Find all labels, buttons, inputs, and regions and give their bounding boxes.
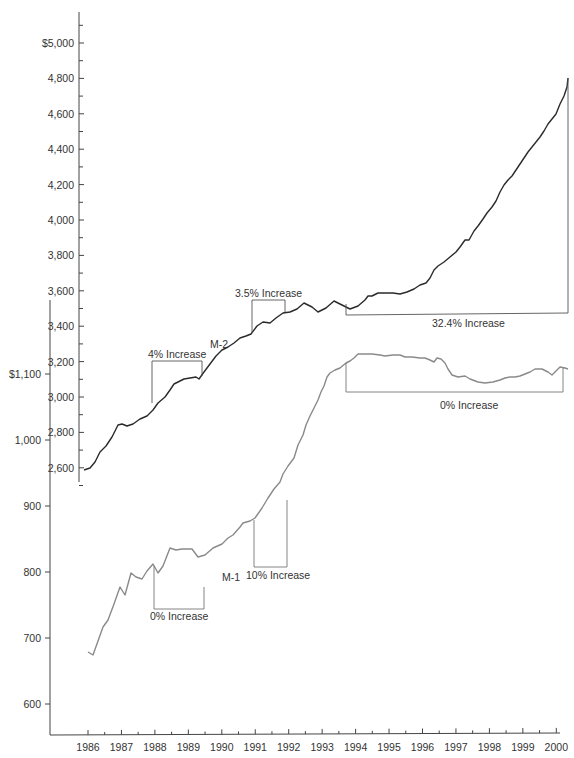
m1-series-label: M-1 <box>222 571 240 583</box>
m2-tick-label: 4,400 <box>48 143 74 155</box>
m2-tick-label: 3,800 <box>48 249 74 261</box>
x-tick-label: 1986 <box>76 741 100 753</box>
x-tick-label: 1997 <box>444 741 468 753</box>
m1-annotation-0pct-1988: 0% Increase <box>150 610 209 622</box>
m2-tick-label: 2,800 <box>48 426 74 438</box>
m1-tick-label: 1,000 <box>15 434 41 446</box>
m1-tick-label: 600 <box>23 698 41 710</box>
m2-tick-label: 4,000 <box>48 214 74 226</box>
m2-tick-label: 4,800 <box>48 72 74 84</box>
x-axis: 1986198719881989199019911992199319941995… <box>50 728 568 753</box>
m1-tick-label: 900 <box>23 500 41 512</box>
m2-tick-label: 3,600 <box>48 285 74 297</box>
x-tick-label: 1987 <box>110 741 134 753</box>
m2-annotation-32-4pct: 32.4% Increase <box>432 317 505 329</box>
m2-annotation-3-5pct: 3.5% Increase <box>235 287 302 299</box>
x-tick-label: 1992 <box>277 741 301 753</box>
x-tick-label: 1989 <box>177 741 201 753</box>
m1-bracket-0pct-1988 <box>154 566 204 609</box>
x-tick-label: 1994 <box>344 741 368 753</box>
m1-tick-label: 700 <box>23 632 41 644</box>
m2-tick-label: 4,200 <box>48 179 74 191</box>
x-tick-label: 1998 <box>478 741 502 753</box>
m2-annotation-4pct: 4% Increase <box>148 348 207 360</box>
m2-bracket-3-5pct <box>252 300 285 333</box>
x-tick-label: 1991 <box>244 741 268 753</box>
x-tick-label: 1995 <box>377 741 401 753</box>
x-tick-label: 1990 <box>210 741 234 753</box>
m1-tick-label: 800 <box>23 566 41 578</box>
m1-annotation-0pct-1994: 0% Increase <box>440 399 499 411</box>
m1-y-axis: $1,1001,000900800700600 <box>9 300 50 735</box>
m2-tick-label: 3,000 <box>48 391 74 403</box>
x-tick-label: 1988 <box>143 741 167 753</box>
money-supply-chart: $5,0004,8004,6004,4004,2004,0003,8003,60… <box>0 0 574 758</box>
m2-tick-label: 3,400 <box>48 320 74 332</box>
m2-tick-label: $5,000 <box>42 37 74 49</box>
x-tick-label: 1996 <box>411 741 435 753</box>
m2-series-line <box>84 78 568 470</box>
x-tick-label: 2000 <box>545 741 569 753</box>
m2-tick-label: 2,600 <box>48 462 74 474</box>
m2-tick-label: 3,200 <box>48 356 74 368</box>
x-tick-label: 1993 <box>310 741 334 753</box>
m2-bracket-32-4pct <box>346 78 568 315</box>
x-tick-label: 1999 <box>511 741 535 753</box>
m2-series-label: M-2 <box>210 338 228 350</box>
m1-tick-label: $1,100 <box>9 368 41 380</box>
m1-annotation-10pct: 10% Increase <box>246 569 310 581</box>
m1-bracket-0pct-1994 <box>346 363 563 392</box>
m2-y-axis: $5,0004,8004,6004,4004,2004,0003,8003,60… <box>42 12 84 486</box>
m1-bracket-10pct <box>254 500 287 567</box>
m2-tick-label: 4,600 <box>48 108 74 120</box>
